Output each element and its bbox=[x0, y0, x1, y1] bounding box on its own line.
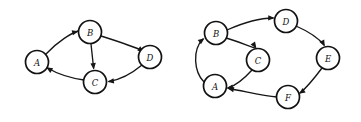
edge-line bbox=[101, 36, 143, 51]
node-left-graph-C[interactable]: C bbox=[84, 71, 107, 94]
edge-line bbox=[229, 89, 277, 98]
edge-left-graph-B-C bbox=[90, 44, 96, 70]
edge-right-graph-A-B bbox=[196, 36, 206, 82]
right-graph: BACDEF bbox=[196, 10, 340, 109]
node-right-graph-C[interactable]: C bbox=[247, 49, 270, 72]
node-label: D bbox=[146, 53, 154, 63]
graphs-svg: ABCD BACDEF bbox=[0, 0, 361, 122]
node-label: B bbox=[86, 28, 93, 38]
edge-right-graph-B-C bbox=[226, 38, 259, 50]
edge-line bbox=[196, 39, 204, 82]
edge-line bbox=[109, 65, 142, 82]
node-label: A bbox=[33, 58, 40, 68]
node-label: E bbox=[324, 54, 332, 64]
arrowhead-icon bbox=[90, 63, 96, 70]
node-label: C bbox=[255, 56, 262, 66]
node-left-graph-B[interactable]: B bbox=[79, 21, 102, 44]
node-right-graph-B[interactable]: B bbox=[205, 22, 228, 45]
node-right-graph-A[interactable]: A bbox=[204, 75, 227, 98]
node-right-graph-D[interactable]: D bbox=[275, 10, 298, 33]
edge-left-graph-A-B bbox=[46, 29, 79, 54]
edge-right-graph-B-D bbox=[227, 15, 275, 30]
edge-line bbox=[227, 18, 273, 30]
edge-right-graph-D-E bbox=[296, 26, 327, 48]
node-label: C bbox=[92, 78, 99, 88]
node-right-graph-E[interactable]: E bbox=[317, 47, 340, 70]
node-label: B bbox=[212, 29, 219, 39]
node-label: D bbox=[282, 17, 290, 27]
diagram-canvas: ABCD BACDEF bbox=[0, 0, 361, 122]
node-label: A bbox=[211, 82, 218, 92]
edge-left-graph-D-C bbox=[107, 65, 142, 84]
edge-left-graph-C-A bbox=[45, 65, 84, 80]
node-left-graph-D[interactable]: D bbox=[139, 46, 162, 69]
edge-line bbox=[226, 38, 255, 48]
node-left-graph-A[interactable]: A bbox=[26, 51, 49, 74]
edge-right-graph-F-A bbox=[227, 86, 277, 97]
edge-right-graph-E-F bbox=[297, 68, 322, 96]
node-right-graph-F[interactable]: F bbox=[277, 86, 300, 109]
edge-line bbox=[48, 68, 85, 80]
arrowhead-icon bbox=[107, 78, 114, 84]
left-graph: ABCD bbox=[26, 21, 162, 94]
node-label: F bbox=[284, 93, 292, 103]
edge-left-graph-B-D bbox=[101, 36, 146, 54]
